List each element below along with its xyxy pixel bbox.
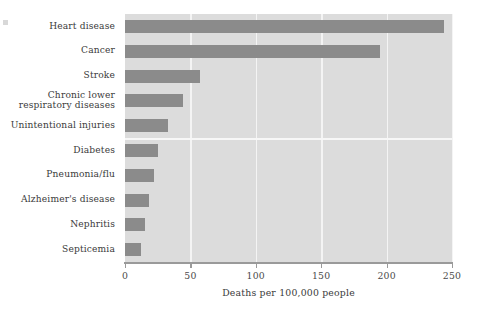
category-label-line: respiratory diseases: [0, 100, 115, 111]
bar-chart-figure: Heart diseaseCancerStrokeChronic lowerre…: [0, 0, 482, 314]
x-axis-tick: [321, 263, 322, 268]
category-label-line: Chronic lower: [0, 90, 115, 101]
category-axis-labels: Heart diseaseCancerStrokeChronic lowerre…: [0, 14, 120, 262]
x-axis-tick-label: 100: [247, 270, 265, 281]
bar: [125, 243, 141, 256]
category-label: Cancer: [0, 45, 115, 56]
category-label-line: Alzheimer's disease: [0, 194, 115, 205]
category-label: Heart disease: [0, 21, 115, 32]
x-axis-tick: [190, 263, 191, 268]
category-label-line: Cancer: [0, 45, 115, 56]
category-label-line: Heart disease: [0, 21, 115, 32]
x-axis-tick: [452, 263, 453, 268]
bar: [125, 70, 200, 83]
category-label-line: Unintentional injuries: [0, 120, 115, 131]
bar: [125, 194, 149, 207]
x-axis-tick: [256, 263, 257, 268]
category-label-line: Nephritis: [0, 219, 115, 230]
bar: [125, 20, 444, 33]
category-label: Diabetes: [0, 145, 115, 156]
x-axis-tick-label: 200: [377, 270, 395, 281]
bar: [125, 218, 145, 231]
category-label: Nephritis: [0, 219, 115, 230]
bar: [125, 119, 168, 132]
category-label-line: Diabetes: [0, 145, 115, 156]
x-axis-tick-label: 250: [443, 270, 461, 281]
bar: [125, 45, 380, 58]
x-axis-line: [124, 262, 453, 264]
category-label: Alzheimer's disease: [0, 194, 115, 205]
category-label: Pneumonia/flu: [0, 169, 115, 180]
bar: [125, 169, 154, 182]
category-label: Stroke: [0, 70, 115, 81]
x-axis-tick: [125, 263, 126, 268]
x-axis-tick-label: 50: [184, 270, 196, 281]
category-label: Septicemia: [0, 244, 115, 255]
x-axis-tick: [387, 263, 388, 268]
x-axis-title: Deaths per 100,000 people: [125, 287, 452, 298]
bar: [125, 144, 158, 157]
x-axis-tick-label: 0: [122, 270, 128, 281]
bar: [125, 94, 183, 107]
category-label-line: Stroke: [0, 70, 115, 81]
category-label: Unintentional injuries: [0, 120, 115, 131]
category-label-line: Pneumonia/flu: [0, 169, 115, 180]
category-label: Chronic lowerrespiratory diseases: [0, 90, 115, 111]
plot-area: [125, 14, 452, 262]
gridline-horizontal: [125, 138, 452, 140]
category-label-line: Septicemia: [0, 244, 115, 255]
x-axis-tick-label: 150: [312, 270, 330, 281]
gridline-vertical: [452, 14, 453, 262]
